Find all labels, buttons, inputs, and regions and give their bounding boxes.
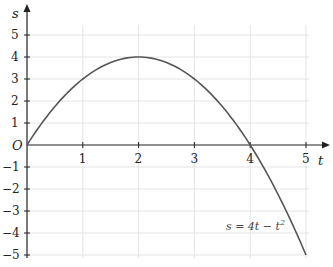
x-tick-label: 4 — [246, 152, 254, 166]
y-axis-label: s — [12, 6, 19, 21]
x-tick-label: 5 — [302, 152, 310, 166]
origin-label: O — [12, 138, 23, 153]
y-tick-label: −1 — [2, 160, 20, 174]
y-tick-label: −4 — [2, 226, 20, 240]
x-tick-label: 1 — [79, 152, 87, 166]
y-tick-label: −3 — [2, 204, 20, 218]
y-tick-label: 4 — [11, 50, 19, 64]
x-axis-label: t — [318, 153, 324, 168]
y-tick-label: −5 — [2, 248, 20, 262]
y-tick-label: −2 — [2, 182, 20, 196]
chart-area: 1234554321−1−2−3−4−5 s t O s = 4t − t2 — [0, 0, 333, 267]
y-tick-label: 5 — [11, 28, 19, 42]
y-tick-label: 3 — [11, 72, 19, 86]
y-axis-arrow-icon — [24, 4, 31, 12]
x-tick-label: 2 — [135, 152, 143, 166]
x-axis-arrow-icon — [322, 142, 330, 149]
y-tick-label: 1 — [11, 116, 19, 130]
equation-annotation: s = 4t − t2 — [226, 218, 285, 233]
x-tick-label: 3 — [190, 152, 198, 166]
y-tick-label: 2 — [11, 94, 19, 108]
